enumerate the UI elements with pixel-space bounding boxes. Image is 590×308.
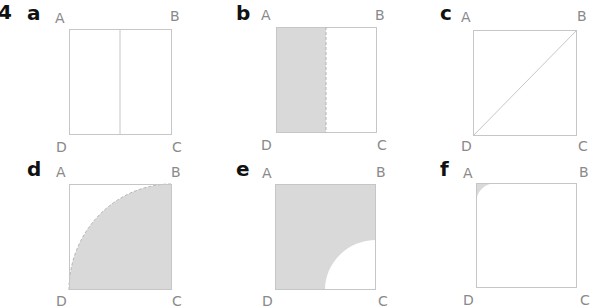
vertex-label-c-B: B (577, 9, 587, 23)
vertex-label-a-D: D (56, 140, 67, 154)
vertex-label-d-C: C (172, 294, 182, 308)
vertex-label-c-D: D (461, 139, 472, 153)
vertex-label-e-A: A (262, 166, 272, 180)
vertex-label-c-C: C (578, 139, 588, 153)
figure-b-half-shaded (276, 27, 377, 133)
vertex-label-f-D: D (463, 293, 474, 307)
panel-letter-b: b (236, 3, 250, 23)
vertex-label-b-D: D (261, 138, 272, 152)
vertex-label-a-A: A (55, 11, 65, 25)
vertex-label-b-A: A (261, 8, 271, 22)
figure-d-quarter-circle (69, 184, 172, 290)
panel-letter-a: a (27, 3, 41, 23)
vertex-label-e-C: C (378, 294, 388, 308)
figure-c-diagonal (473, 30, 577, 136)
vertex-label-b-C: C (377, 138, 387, 152)
vertex-label-c-A: A (461, 10, 471, 24)
figure-a-square-midline (69, 29, 172, 135)
vertex-label-b-B: B (375, 8, 385, 22)
vertex-label-a-B: B (170, 9, 180, 23)
vertex-label-f-A: A (463, 166, 473, 180)
vertex-label-a-C: C (172, 140, 182, 154)
panel-letter-f: f (440, 159, 449, 179)
vertex-label-f-B: B (579, 165, 589, 179)
figure-e-shaded-with-cutout (275, 184, 376, 290)
panel-letter-c: c (440, 3, 452, 23)
question-number: 4 (0, 0, 12, 24)
vertex-label-e-D: D (262, 294, 273, 308)
vertex-label-f-C: C (580, 293, 590, 307)
vertex-label-d-B: B (171, 165, 181, 179)
vertex-label-e-B: B (376, 165, 386, 179)
panel-letter-e: e (236, 159, 250, 179)
vertex-label-d-D: D (56, 294, 67, 308)
vertex-label-d-A: A (56, 165, 66, 179)
figure-f-corner-shaded (476, 183, 577, 288)
panel-letter-d: d (27, 159, 41, 179)
